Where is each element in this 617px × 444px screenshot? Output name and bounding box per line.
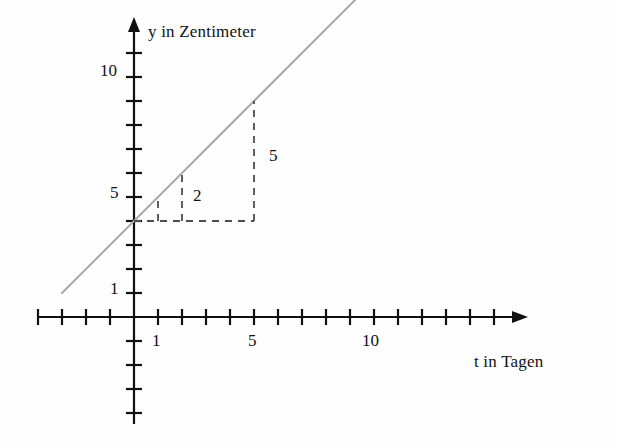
x-tick-label-1: 1: [152, 331, 161, 351]
rise-label-large: 5: [269, 146, 278, 166]
rise-label-small: 2: [193, 186, 202, 206]
x-tick-label-5: 5: [248, 331, 257, 351]
growth-line-segment: [62, 0, 396, 293]
plot-canvas: [0, 0, 617, 444]
x-axis-arrowhead: [512, 311, 528, 323]
x-tick-label-10: 10: [362, 331, 379, 351]
x-axis: [38, 311, 528, 323]
y-axis-title: y in Zentimeter: [148, 22, 256, 42]
y-tick-label-10: 10: [100, 61, 117, 81]
coordinate-plot-figure: y in Zentimeter t in Tagen 10 5 1 1 5 10…: [0, 0, 617, 444]
y-tick-label-1: 1: [110, 279, 119, 299]
x-axis-title: t in Tagen: [474, 352, 543, 372]
y-axis-arrowhead: [128, 17, 140, 32]
y-tick-label-5: 5: [110, 183, 119, 203]
growth-line: [62, 0, 396, 293]
